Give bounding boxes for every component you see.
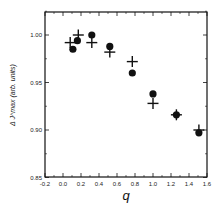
x-tick-label: 1.6 (203, 181, 212, 187)
x-axis-label: q (122, 188, 130, 203)
data-series (65, 30, 205, 137)
crosses-series (65, 30, 205, 136)
x-tick-label: 1.4 (185, 181, 194, 187)
x-axis-ticks: -0.20.00.20.40.60.81.01.21.41.6 (40, 12, 212, 187)
scatter-chart: -0.20.00.20.40.60.81.01.21.41.6 0.850.90… (0, 0, 222, 214)
circle-marker (149, 90, 156, 97)
y-tick-label: 0.85 (30, 175, 42, 181)
y-tick-label: 1.00 (30, 32, 42, 38)
plus-marker (104, 47, 115, 58)
plot-frame (45, 12, 207, 177)
circle-marker (129, 69, 136, 76)
x-tick-label: 0.4 (95, 181, 104, 187)
x-tick-label: 0.2 (77, 181, 86, 187)
circles-series (69, 31, 202, 136)
y-tick-label: 0.90 (30, 127, 42, 133)
plus-marker (193, 125, 204, 136)
y-axis-ticks: 0.850.900.951.00 (30, 11, 207, 180)
plus-marker (171, 109, 182, 120)
x-tick-label: 1.2 (167, 181, 176, 187)
plus-marker (127, 56, 138, 67)
x-tick-label: 0.6 (113, 181, 122, 187)
x-tick-label: 0.0 (59, 181, 68, 187)
x-tick-label: 1.0 (149, 181, 158, 187)
plus-marker (86, 37, 97, 48)
x-tick-label: -0.2 (40, 181, 51, 187)
y-tick-label: 0.95 (30, 80, 42, 86)
plus-marker (148, 98, 159, 109)
x-tick-label: 0.8 (131, 181, 140, 187)
y-axis-label: Δ J^max (arb. units) (9, 64, 17, 127)
